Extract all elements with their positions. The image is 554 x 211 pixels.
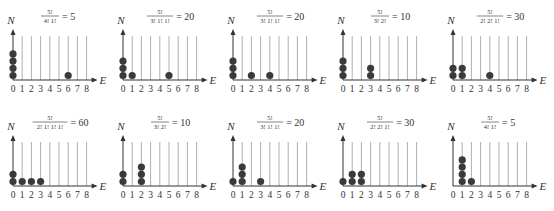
- particle-ball: [119, 65, 126, 72]
- formula-denominator: 3! 2!: [374, 17, 386, 24]
- x-tick-label: 3: [148, 84, 153, 94]
- x-axis-label: E: [209, 74, 217, 86]
- particle-ball: [468, 178, 475, 185]
- formula-value: = 60: [70, 117, 88, 128]
- x-tick-label: 3: [478, 190, 483, 200]
- x-tick-label: 7: [185, 84, 190, 94]
- x-axis-label: E: [319, 180, 327, 192]
- x-tick-label: 8: [84, 190, 89, 200]
- x-axis-arrow-icon: [312, 184, 318, 189]
- y-axis-label: N: [6, 120, 15, 132]
- particle-ball: [229, 65, 236, 72]
- x-tick-label: 6: [286, 84, 291, 94]
- x-tick-label: 4: [377, 190, 382, 200]
- x-tick-label: 5: [277, 190, 282, 200]
- particle-ball: [119, 72, 126, 79]
- x-tick-label: 5: [57, 84, 62, 94]
- occupancy-panel: NE0123456785!3! 1! 1!= 20: [220, 0, 330, 105]
- x-axis-label: E: [209, 180, 217, 192]
- x-axis-label: E: [319, 74, 327, 86]
- x-tick-label: 1: [460, 84, 465, 94]
- x-tick-label: 4: [487, 190, 492, 200]
- occupancy-panel: NE0123456785!3! 2!= 10: [110, 106, 220, 211]
- x-tick-label: 6: [506, 190, 511, 200]
- x-tick-label: 2: [139, 190, 144, 200]
- x-tick-label: 5: [387, 190, 392, 200]
- y-axis-arrow-icon: [231, 135, 236, 141]
- particle-ball: [138, 178, 145, 185]
- x-tick-label: 1: [20, 190, 25, 200]
- formula-denominator: 3! 1! 1!: [260, 123, 280, 130]
- x-tick-label: 2: [469, 190, 474, 200]
- particle-ball: [239, 178, 246, 185]
- y-axis-label: N: [336, 120, 345, 132]
- x-tick-label: 6: [66, 84, 71, 94]
- x-tick-label: 5: [57, 190, 62, 200]
- formula-numerator: 5!: [267, 114, 272, 121]
- particle-ball: [9, 171, 16, 178]
- x-tick-label: 0: [451, 190, 456, 200]
- x-tick-label: 8: [84, 84, 89, 94]
- particle-ball: [9, 58, 16, 65]
- formula-denominator: 2! 2! 1!: [370, 123, 390, 130]
- x-tick-label: 2: [359, 84, 364, 94]
- particle-ball: [459, 156, 466, 163]
- particle-ball: [239, 164, 246, 171]
- x-tick-label: 8: [414, 190, 419, 200]
- particle-ball: [459, 65, 466, 72]
- particle-ball: [119, 58, 126, 65]
- x-tick-label: 3: [38, 190, 43, 200]
- x-tick-label: 7: [295, 84, 300, 94]
- particle-ball: [339, 65, 346, 72]
- x-axis-label: E: [539, 180, 547, 192]
- particle-ball: [119, 171, 126, 178]
- particle-ball: [349, 178, 356, 185]
- formula-value: = 20: [286, 117, 304, 128]
- x-tick-label: 0: [11, 84, 16, 94]
- y-axis-arrow-icon: [341, 29, 346, 35]
- x-tick-label: 2: [29, 84, 34, 94]
- formula-value: = 30: [506, 11, 524, 22]
- x-tick-label: 0: [11, 190, 16, 200]
- x-tick-label: 7: [185, 190, 190, 200]
- formula-numerator: 5!: [47, 8, 52, 15]
- x-axis-label: E: [99, 180, 107, 192]
- x-tick-label: 5: [167, 190, 172, 200]
- occupancy-panel: NE0123456785!3! 2!= 10: [330, 0, 440, 105]
- x-tick-label: 8: [194, 84, 199, 94]
- x-tick-label: 5: [277, 84, 282, 94]
- particle-ball: [339, 72, 346, 79]
- formula-denominator: 3! 2!: [154, 123, 166, 130]
- x-tick-label: 6: [396, 84, 401, 94]
- x-axis-arrow-icon: [312, 78, 318, 83]
- x-tick-label: 0: [121, 190, 126, 200]
- particle-ball: [9, 178, 16, 185]
- x-tick-label: 7: [405, 190, 410, 200]
- x-tick-label: 5: [497, 84, 502, 94]
- occupancy-panel: NE0123456785!2! 2! 1!= 30: [440, 0, 550, 105]
- particle-ball: [9, 50, 16, 57]
- formula-value: = 5: [62, 11, 75, 22]
- particle-ball: [9, 65, 16, 72]
- formula-numerator: 5!: [487, 8, 492, 15]
- x-axis-arrow-icon: [202, 184, 208, 189]
- x-tick-label: 2: [139, 84, 144, 94]
- x-tick-label: 7: [515, 190, 520, 200]
- particle-ball: [339, 58, 346, 65]
- occupancy-panel: NE0123456785!4! 1!= 5: [0, 0, 110, 105]
- occupancy-panel: NE0123456785!3! 1! 1!= 20: [220, 106, 330, 211]
- particle-ball: [138, 164, 145, 171]
- x-tick-label: 8: [524, 84, 529, 94]
- x-tick-label: 6: [506, 84, 511, 94]
- x-tick-label: 1: [240, 84, 245, 94]
- x-tick-label: 8: [194, 190, 199, 200]
- particle-ball: [229, 72, 236, 79]
- particle-ball: [358, 171, 365, 178]
- formula-denominator: 4! 1!: [484, 123, 496, 130]
- x-tick-label: 8: [524, 190, 529, 200]
- y-axis-label: N: [446, 120, 455, 132]
- particle-ball: [367, 72, 374, 79]
- x-axis-label: E: [99, 74, 107, 86]
- x-tick-label: 4: [157, 190, 162, 200]
- formula-denominator: 4! 1!: [44, 17, 56, 24]
